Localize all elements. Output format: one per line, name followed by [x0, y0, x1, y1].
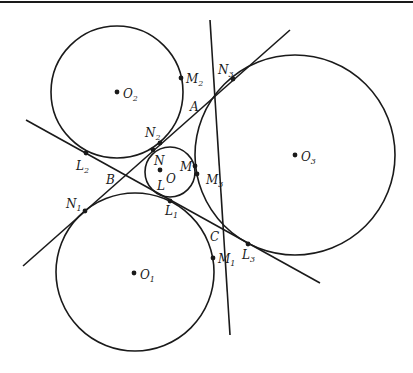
point-n1: N1 [65, 197, 87, 213]
point-label: O3 [301, 150, 316, 166]
point-n2: N2 [144, 126, 162, 145]
point-label: M2 [185, 72, 203, 88]
point-o1: O1 [132, 268, 155, 284]
point-dot-icon [132, 271, 137, 276]
point-dot-icon [179, 76, 184, 81]
point-a: A [189, 100, 199, 114]
point-l: L [156, 179, 165, 193]
line-N3-N1 [23, 30, 290, 266]
point-label: B [105, 173, 115, 187]
points-group: OO1O2O3MM1M2M3NN1N2N3LL1L2L3ABC [65, 63, 316, 284]
point-dot-icon [115, 90, 120, 95]
point-dot-icon [84, 151, 89, 156]
point-label: N1 [65, 197, 82, 213]
point-dot-icon [158, 168, 163, 173]
point-label: M1 [217, 252, 235, 268]
point-label: C [210, 230, 219, 244]
point-b: B [105, 173, 115, 187]
point-label: O1 [140, 268, 155, 284]
point-l2: L2 [75, 151, 89, 175]
point-label: L [156, 179, 165, 193]
point-dot-icon [293, 153, 298, 158]
point-label: N3 [217, 63, 234, 79]
point-dot-icon [193, 164, 198, 169]
point-c: C [210, 230, 219, 244]
point-dot-icon [195, 172, 200, 177]
point-label: O [166, 172, 176, 186]
point-dot-icon [211, 256, 216, 261]
point-o2: O2 [115, 87, 138, 103]
point-label: A [189, 100, 199, 114]
point-n3: N3 [217, 63, 235, 81]
point-label: O2 [123, 87, 138, 103]
point-dot-icon [168, 199, 173, 204]
point-label: L1 [164, 204, 178, 220]
point-label: N [153, 154, 165, 168]
tangent-circles-diagram: OO1O2O3MM1M2M3NN1N2N3LL1L2L3ABC [0, 0, 413, 373]
point-o3: O3 [293, 150, 316, 166]
point-dot-icon [83, 209, 88, 214]
point-label: M [179, 160, 193, 174]
point-l1: L1 [164, 199, 178, 220]
point-label: L2 [75, 159, 89, 175]
point-label: L3 [241, 248, 255, 264]
point-label: N2 [144, 126, 161, 142]
point-dot-icon [246, 242, 251, 247]
point-dot-icon [151, 148, 156, 153]
